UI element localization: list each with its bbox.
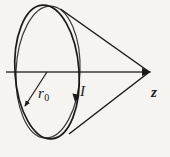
figure-canvas [0,0,170,157]
current-label: I [80,84,85,99]
radius-label-text: r [38,85,44,101]
cone-loop-figure: r0 I z [0,0,170,157]
radius-label-subscript: 0 [44,92,49,103]
z-axis-label: z [151,85,157,100]
radius-label: r0 [38,86,49,103]
